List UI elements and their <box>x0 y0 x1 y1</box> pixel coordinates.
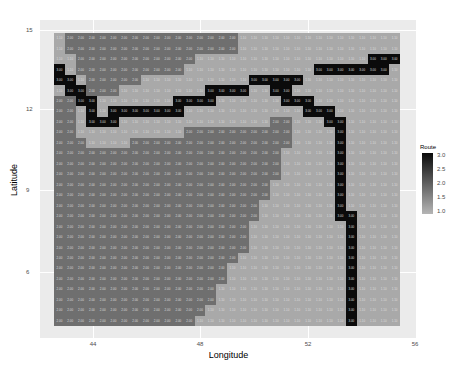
heatmap-cell: 1.10 <box>54 85 65 95</box>
heatmap-cell: 1.10 <box>151 85 162 95</box>
heatmap-cell: 2.00 <box>195 253 206 263</box>
heatmap-cell: 1.10 <box>195 316 206 326</box>
heatmap-cell: 2.00 <box>119 274 130 284</box>
heatmap-cell: 1.10 <box>216 305 227 315</box>
heatmap-cell: 1.10 <box>303 221 314 231</box>
heatmap-cell: 2.00 <box>173 232 184 242</box>
heatmap-cell: 2.00 <box>227 200 238 210</box>
heatmap-cell: 2.00 <box>86 43 97 53</box>
heatmap-cell: 2.00 <box>141 43 152 53</box>
heatmap-cell: 2.00 <box>119 263 130 273</box>
heatmap-cell: 2.00 <box>119 253 130 263</box>
heatmap-cell: 2.00 <box>195 295 206 305</box>
heatmap-cell: 1.10 <box>54 54 65 64</box>
heatmap-cell: 2.00 <box>54 200 65 210</box>
heatmap-cell: 1.10 <box>292 169 303 179</box>
heatmap-cell: 1.10 <box>346 85 357 95</box>
heatmap-cell: 1.10 <box>292 127 303 137</box>
heatmap-cell: 2.00 <box>205 232 216 242</box>
heatmap-cell: 2.00 <box>238 242 249 252</box>
heatmap-cell: 2.00 <box>130 211 141 221</box>
heatmap-cell: 2.00 <box>238 200 249 210</box>
heatmap-cell: 1.10 <box>292 159 303 169</box>
heatmap-cell: 3.00 <box>368 64 379 74</box>
heatmap-cell: 1.10 <box>324 54 335 64</box>
heatmap-cell: 1.10 <box>270 253 281 263</box>
heatmap-cell: 1.10 <box>259 253 270 263</box>
heatmap-cell: 2.00 <box>162 316 173 326</box>
heatmap-cell: 2.00 <box>227 148 238 158</box>
heatmap-cell: 1.10 <box>86 138 97 148</box>
heatmap-cell: 2.00 <box>184 232 195 242</box>
heatmap-cell: 3.00 <box>281 96 292 106</box>
heatmap-cell: 3.00 <box>335 117 346 127</box>
heatmap-cell: 1.10 <box>108 138 119 148</box>
heatmap-cell: 1.10 <box>346 180 357 190</box>
heatmap-cell: 2.00 <box>65 284 76 294</box>
heatmap-cell: 1.10 <box>314 200 325 210</box>
heatmap-cell: 1.10 <box>205 54 216 64</box>
heatmap-cell: 2.00 <box>227 253 238 263</box>
heatmap-cell: 1.10 <box>238 33 249 43</box>
heatmap-cell: 1.10 <box>389 127 400 137</box>
heatmap-cell: 2.00 <box>195 274 206 284</box>
heatmap-cell: 1.10 <box>303 85 314 95</box>
legend-label-3: 3.0 <box>437 152 445 158</box>
heatmap-cell: 2.00 <box>86 200 97 210</box>
heatmap-cell: 2.00 <box>108 200 119 210</box>
heatmap-cell: 1.10 <box>324 33 335 43</box>
heatmap-cell: 2.00 <box>184 127 195 137</box>
heatmap-cell: 2.00 <box>141 253 152 263</box>
heatmap-cell: 1.10 <box>378 96 389 106</box>
heatmap-cell: 2.00 <box>130 253 141 263</box>
heatmap-cell: 1.10 <box>378 211 389 221</box>
heatmap-cell: 2.00 <box>227 33 238 43</box>
heatmap-cell: 2.00 <box>281 127 292 137</box>
heatmap-cell: 2.00 <box>76 232 87 242</box>
heatmap-cell: 2.00 <box>97 221 108 231</box>
heatmap-cell: 2.00 <box>86 284 97 294</box>
heatmap-cell: 2.00 <box>259 138 270 148</box>
heatmap-cell: 1.10 <box>281 211 292 221</box>
heatmap-cell: 2.00 <box>65 138 76 148</box>
heatmap-cell: 1.10 <box>357 117 368 127</box>
heatmap-cell: 2.00 <box>141 263 152 273</box>
heatmap-cell: 1.10 <box>314 305 325 315</box>
heatmap-cell: 2.00 <box>65 253 76 263</box>
heatmap-cell: 1.10 <box>281 148 292 158</box>
heatmap-cell: 1.10 <box>292 305 303 315</box>
legend-title: Route <box>420 144 436 150</box>
heatmap-cell: 2.00 <box>162 138 173 148</box>
heatmap-cell: 3.00 <box>65 85 76 95</box>
heatmap-cell: 3.00 <box>346 284 357 294</box>
heatmap-cell: 1.10 <box>184 85 195 95</box>
heatmap-cell: 2.00 <box>184 284 195 294</box>
heatmap-cell: 2.00 <box>54 180 65 190</box>
heatmap-cell: 2.00 <box>130 232 141 242</box>
heatmap-cell: 1.10 <box>151 96 162 106</box>
heatmap-cell: 2.00 <box>86 75 97 85</box>
heatmap-cell: 1.10 <box>357 169 368 179</box>
heatmap-cell: 1.10 <box>205 305 216 315</box>
heatmap-cell: 2.00 <box>130 190 141 200</box>
heatmap-cell: 1.10 <box>281 64 292 74</box>
heatmap-cell: 1.10 <box>249 242 260 252</box>
legend-label-1-5: 1.5 <box>437 194 445 200</box>
heatmap-cell: 2.00 <box>216 180 227 190</box>
heatmap-cell: 2.00 <box>227 127 238 137</box>
heatmap-cell: 1.10 <box>173 127 184 137</box>
heatmap-cell: 1.10 <box>389 242 400 252</box>
heatmap-cell: 2.00 <box>184 148 195 158</box>
heatmap-cell: 1.10 <box>303 138 314 148</box>
heatmap-cell: 3.00 <box>346 263 357 273</box>
heatmap-cell: 1.10 <box>162 75 173 85</box>
heatmap-cell: 2.00 <box>119 284 130 294</box>
heatmap-cell: 1.10 <box>324 190 335 200</box>
heatmap-cell: 2.00 <box>54 284 65 294</box>
heatmap-cell: 2.00 <box>259 159 270 169</box>
heatmap-cell: 2.00 <box>86 295 97 305</box>
heatmap-cell: 2.00 <box>130 221 141 231</box>
heatmap-cell: 2.00 <box>173 253 184 263</box>
heatmap-cell: 2.00 <box>216 253 227 263</box>
heatmap-cell: 1.10 <box>335 232 346 242</box>
